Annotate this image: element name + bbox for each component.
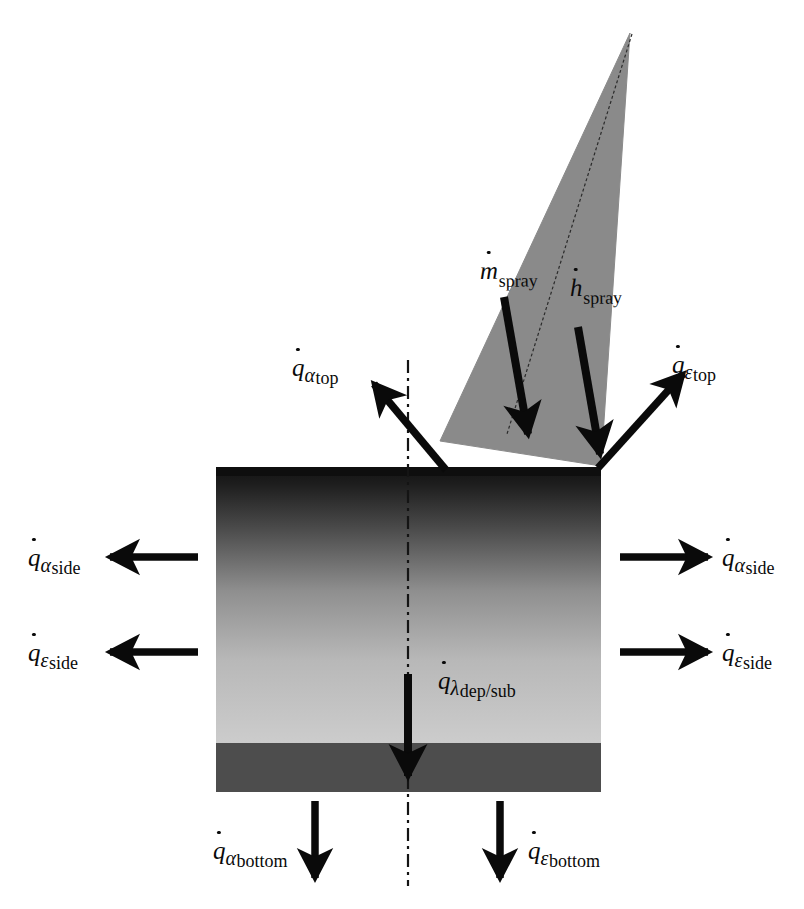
label-m-spray: mspray [480, 257, 538, 289]
q-eps-bottom-symbol: q [528, 838, 541, 863]
q-eps-side-right-subscript: side [743, 654, 772, 672]
q-alpha-side-right-greek: α [735, 555, 746, 575]
overdot-icon [487, 250, 491, 254]
overdot-icon [442, 661, 446, 665]
q-eps-side-left-subscript: side [49, 654, 78, 672]
q-alpha-top-greek: α [305, 365, 316, 385]
label-q-eps-bottom: qεbottom [528, 838, 600, 870]
overdot-icon [726, 633, 730, 637]
q-eps-bottom-greek: ε [541, 848, 549, 868]
overdot-icon [676, 345, 680, 349]
q-alpha-bottom-symbol: q [213, 838, 226, 863]
q-eps-top-greek: ε [685, 362, 693, 382]
overdot-icon [217, 831, 221, 835]
label-q-alpha-bottom: qαbottom [213, 838, 288, 870]
spray-cone [440, 33, 630, 466]
q-alpha-bottom-subscript: bottom [237, 852, 288, 870]
q-eps-top-subscript: top [693, 366, 716, 384]
label-q-eps-side-right: qεside [722, 640, 772, 672]
overdot-icon [32, 538, 36, 542]
label-q-alpha-side-right: qαside [722, 545, 775, 577]
q-eps-side-left-greek: ε [41, 650, 49, 670]
label-q-alpha-top: qαtop [292, 355, 339, 387]
label-q-eps-side-left: qεside [28, 640, 78, 672]
overdot-icon [726, 538, 730, 542]
arrow-q-alpha-top [374, 384, 446, 470]
q-eps-side-left-symbol: q [28, 640, 41, 665]
overdot-icon [32, 633, 36, 637]
q-eps-side-right-symbol: q [722, 640, 735, 665]
energy-balance-diagram: mspray hspray qαtop qεtop qαside qεside … [0, 0, 804, 909]
overdot-icon [296, 348, 300, 352]
diagram-canvas [0, 0, 804, 909]
q-eps-top-symbol: q [672, 352, 685, 377]
q-alpha-side-right-subscript: side [746, 559, 775, 577]
label-q-lambda-dep-sub: qλdep/sub [438, 668, 516, 700]
q-alpha-top-subscript: top [316, 369, 339, 387]
label-q-eps-top: qεtop [672, 352, 716, 384]
m-spray-symbol: m [480, 258, 498, 283]
h-spray-subscript: spray [583, 288, 622, 306]
overdot-icon [532, 831, 536, 835]
m-spray-subscript: spray [499, 271, 538, 289]
q-lambda-dep-sub-symbol: q [438, 668, 451, 693]
label-q-alpha-side-left: qαside [28, 545, 81, 577]
h-spray-symbol: h [570, 275, 583, 300]
arrow-q-eps-top [598, 374, 683, 468]
overdot-icon [574, 267, 578, 271]
q-alpha-side-right-symbol: q [722, 545, 735, 570]
q-alpha-side-left-subscript: side [52, 559, 81, 577]
label-h-spray: hspray [570, 274, 622, 306]
q-lambda-dep-sub-subscript: dep/sub [460, 682, 516, 700]
q-alpha-side-left-greek: α [41, 555, 52, 575]
q-alpha-top-symbol: q [292, 355, 305, 380]
q-eps-bottom-subscript: bottom [549, 852, 600, 870]
q-eps-side-right-greek: ε [735, 650, 743, 670]
spray-cone-group [440, 33, 632, 466]
q-alpha-bottom-greek: α [226, 848, 237, 868]
q-alpha-side-left-symbol: q [28, 545, 41, 570]
q-lambda-dep-sub-greek: λ [451, 678, 460, 698]
